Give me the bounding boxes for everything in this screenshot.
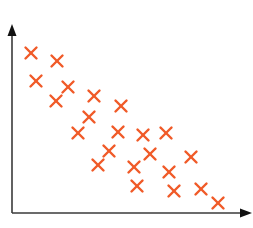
x-marker-icon	[138, 130, 149, 141]
x-marker-icon	[84, 112, 95, 123]
x-marker-icon	[186, 152, 197, 163]
x-marker-icon	[113, 127, 124, 138]
y-axis-arrow-icon	[8, 24, 17, 36]
x-marker-icon	[213, 198, 224, 209]
axes	[8, 24, 253, 218]
x-marker-icon	[93, 160, 104, 171]
x-marker-icon	[161, 128, 172, 139]
x-marker-icon	[145, 149, 156, 160]
x-marker-icon	[169, 186, 180, 197]
x-axis-arrow-icon	[240, 209, 252, 218]
x-marker-icon	[196, 184, 207, 195]
x-marker-icon	[51, 96, 62, 107]
x-marker-icon	[52, 56, 63, 67]
x-marker-icon	[89, 91, 100, 102]
x-marker-icon	[129, 162, 140, 173]
x-marker-icon	[104, 146, 115, 157]
data-markers	[26, 48, 224, 209]
x-marker-icon	[26, 48, 37, 59]
x-marker-icon	[164, 167, 175, 178]
x-marker-icon	[132, 181, 143, 192]
x-marker-icon	[116, 101, 127, 112]
x-marker-icon	[73, 128, 84, 139]
x-marker-icon	[31, 76, 42, 87]
scatter-plot	[0, 0, 253, 228]
x-marker-icon	[63, 82, 74, 93]
